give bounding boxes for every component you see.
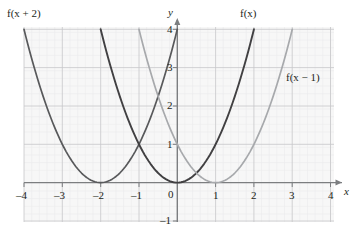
- x-tick-label-4: 4: [328, 190, 334, 201]
- curve-label-f-x: f(x): [240, 8, 257, 19]
- x-tick-label-minus-4: –4: [16, 190, 27, 201]
- y-tick-label-minus-1: –1: [160, 215, 171, 226]
- y-tick-label-4: 4: [167, 24, 173, 35]
- curve-label-f-x-minus-1: f(x − 1): [286, 72, 320, 83]
- x-axis-arrow: [336, 180, 343, 186]
- x-axis-label: x: [344, 186, 349, 197]
- y-tick-label-2: 2: [167, 100, 173, 111]
- y-axis-arrow: [174, 18, 180, 25]
- y-tick-label-3: 3: [167, 62, 173, 73]
- parabola-transformations-figure: f(x + 2) f(x) f(x − 1) y x –4 –3 –2 –1 1…: [0, 0, 358, 233]
- x-tick-label-minus-1: –1: [131, 190, 142, 201]
- x-tick-label-1: 1: [213, 190, 219, 201]
- origin-label: 0: [168, 189, 174, 200]
- x-tick-label-2: 2: [251, 190, 257, 201]
- x-tick-label-minus-3: –3: [54, 190, 65, 201]
- y-axis-label: y: [168, 7, 173, 18]
- x-tick-label-minus-2: –2: [93, 190, 104, 201]
- x-tick-label-3: 3: [289, 190, 295, 201]
- curve-label-f-x-plus-2: f(x + 2): [7, 8, 41, 19]
- y-tick-label-1: 1: [167, 139, 173, 150]
